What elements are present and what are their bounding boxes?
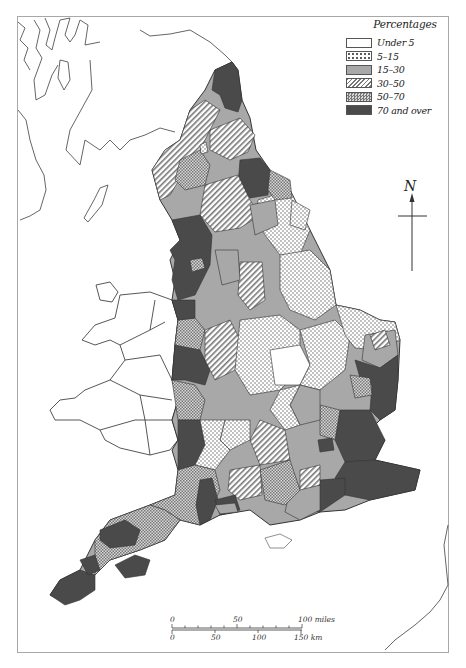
legend-item-under-5: Under 5: [346, 36, 446, 50]
france-coast: [385, 585, 448, 650]
legend: Percentages Under 5 5–15 15–30 30–50 50–…: [346, 18, 446, 117]
legend-item-30-50: 30–50: [346, 77, 446, 91]
swatch-grey-icon: [346, 65, 372, 75]
scale-km-50: 50: [211, 633, 221, 642]
scale-km-100: 100: [252, 633, 266, 642]
swatch-crosshatch-icon: [346, 92, 372, 102]
legend-item-15-30: 15–30: [346, 63, 446, 77]
legend-item-5-15: 5–15: [346, 50, 446, 64]
legend-item-70-over: 70 and over: [346, 104, 446, 118]
scale-km-150: 150 km: [294, 633, 322, 642]
swatch-hatch-icon: [346, 78, 372, 88]
scale-miles-0: 0: [170, 615, 175, 624]
swatch-dots-icon: [346, 51, 372, 61]
north-arrow-icon: [392, 178, 432, 273]
scale-km-0: 0: [170, 633, 175, 642]
north-arrow: N: [392, 178, 432, 273]
wales: [50, 282, 178, 455]
swatch-white-icon: [346, 38, 372, 48]
legend-item-50-70: 50–70: [346, 90, 446, 104]
swatch-dark-icon: [346, 105, 372, 115]
scale-bar: 0 50 100 miles 0 50 100 150 km: [170, 612, 320, 642]
scale-miles-50: 50: [233, 615, 243, 624]
scale-miles-100: 100 miles: [298, 615, 335, 624]
legend-title: Percentages: [364, 18, 446, 30]
